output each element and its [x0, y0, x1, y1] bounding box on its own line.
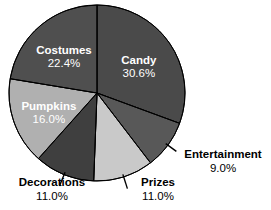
- slice-label-entertainment: Entertainment9.0%: [184, 148, 261, 174]
- slice-label-candy: Candy30.6%: [121, 54, 157, 79]
- slice-label-prizes: Prizes11.0%: [141, 176, 175, 202]
- leader-line-entertainment: [166, 144, 177, 152]
- pie-chart: Candy30.6%Entertainment9.0%Prizes11.0%De…: [0, 0, 271, 210]
- pie-chart-canvas: Candy30.6%Entertainment9.0%Prizes11.0%De…: [0, 0, 271, 210]
- slice-label-decorations: Decorations11.0%: [19, 176, 85, 202]
